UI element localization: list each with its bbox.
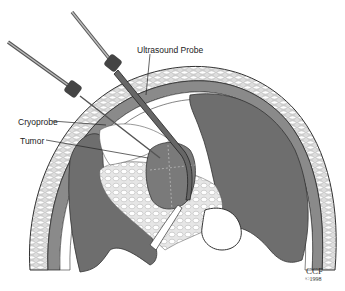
- label-tumor: Tumor: [20, 136, 44, 146]
- credit-copyright: ©1998: [305, 276, 322, 282]
- credit-org: CCF: [306, 266, 323, 276]
- figure-canvas: Ultrasound Probe Cryoprobe Tumor CCF ©19…: [0, 0, 345, 291]
- label-cryoprobe: Cryoprobe: [18, 117, 58, 127]
- label-ultrasound-probe: Ultrasound Probe: [137, 45, 203, 55]
- anatomy-illustration: [0, 0, 345, 291]
